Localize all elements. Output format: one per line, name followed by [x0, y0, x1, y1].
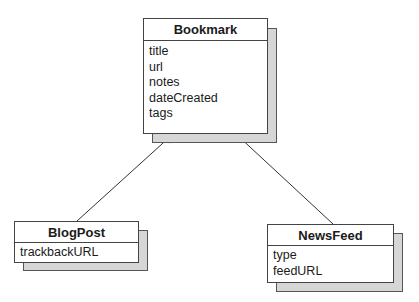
attribute: dateCreated — [149, 91, 263, 107]
attribute: notes — [149, 75, 263, 91]
attribute: url — [149, 60, 263, 76]
attribute-list: title url notes dateCreated tags — [144, 41, 267, 122]
newsfeed-to-bookmark-arrow — [236, 134, 333, 224]
attribute-list: type feedURL — [268, 246, 393, 279]
attribute: tags — [149, 106, 263, 122]
class-name-newsfeed: NewsFeed — [268, 225, 393, 246]
attribute: feedURL — [273, 264, 389, 280]
attribute: trackbackURL — [20, 245, 134, 261]
blogpost-to-bookmark-arrow — [77, 134, 173, 221]
attribute-list: trackbackURL — [15, 243, 138, 261]
class-name-blogpost: BlogPost — [15, 222, 138, 243]
class-blogpost[interactable]: BlogPost trackbackURL — [14, 221, 139, 263]
class-name-bookmark: Bookmark — [144, 19, 267, 41]
class-newsfeed[interactable]: NewsFeed type feedURL — [267, 224, 394, 283]
attribute: type — [273, 248, 389, 264]
class-bookmark[interactable]: Bookmark title url notes dateCreated tag… — [143, 18, 268, 134]
attribute: title — [149, 44, 263, 60]
